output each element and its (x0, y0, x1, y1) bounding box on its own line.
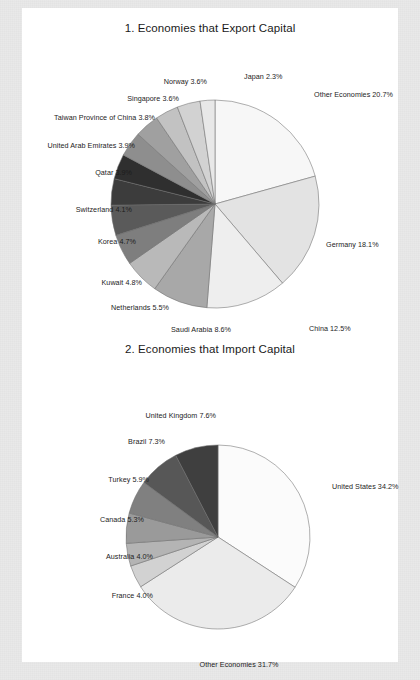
pie-slice-label: Other Economies 20.7% (314, 91, 393, 98)
pie-slice-label: Japan 2.3% (244, 73, 282, 80)
pie-slice-label: Taiwan Province of China 3.8% (54, 114, 155, 121)
pie-slice-label: Other Economies 31.7% (200, 661, 279, 668)
pie-slice-label: Singapore 3.6% (127, 95, 179, 102)
pie-slice-label: Qatar 3.9% (95, 169, 132, 176)
pie-slice-label: Canada 5.3% (100, 516, 144, 523)
pie-slice-label: France 4.0% (112, 592, 153, 599)
pie-slice-label: China 12.5% (309, 325, 351, 332)
pie-chart-import (22, 338, 398, 662)
pie-slice-label: Korea 4.7% (98, 238, 136, 245)
pie-slice-label: Norway 3.6% (164, 78, 207, 85)
pie-slice-label: Netherlands 5.5% (111, 304, 169, 311)
pie-slice-label: United Arab Emirates 3.9% (47, 142, 135, 149)
pie-slice-label: United Kingdom 7.6% (146, 412, 216, 419)
pie-slice-label: Saudi Arabia 8.6% (171, 326, 231, 333)
pie-slice-label: Germany 18.1% (326, 241, 379, 248)
chart-panel-import: 2. Economies that Import Capital (22, 338, 398, 662)
pie-slice-label: Australia 4.0% (106, 553, 153, 560)
chart-panel-export: 1. Economies that Export Capital (22, 8, 398, 338)
pie-slice-label: Kuwait 4.8% (101, 279, 142, 286)
pie-slice-label: Brazil 7.3% (128, 438, 165, 445)
pie-chart-export (22, 8, 398, 338)
pie-slice-label: Switzerland 4.1% (76, 206, 132, 213)
pie-slice-label: Turkey 5.9% (108, 476, 149, 483)
document-sheet: 1. Economies that Export Capital 2. Econ… (22, 8, 398, 662)
pie-slice-label: United States 34.2% (332, 483, 398, 490)
